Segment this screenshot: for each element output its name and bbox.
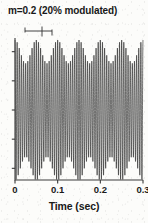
am-signal-trace xyxy=(15,40,143,179)
x-tick-label: 0.2 xyxy=(94,184,107,195)
x-tick-label: 0.1 xyxy=(51,184,64,195)
x-axis-tick-labels: 00.10.20.3 xyxy=(0,184,148,197)
interval-caliper-marker xyxy=(25,27,52,37)
x-axis-label: Time (sec) xyxy=(0,200,148,212)
am-waveform-figure: m=0.2 (20% modulated) 00.10.20.3 Time (s… xyxy=(0,0,148,223)
x-tick-label: 0 xyxy=(12,184,17,195)
x-tick-label: 0.3 xyxy=(136,184,148,195)
